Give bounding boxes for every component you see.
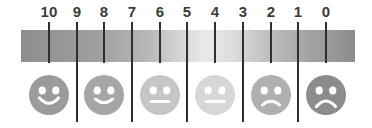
face-sad-icon[interactable] <box>250 74 292 116</box>
tick-line-3 <box>242 22 244 122</box>
tick-line-10 <box>48 22 50 63</box>
tick-line-9 <box>76 22 78 122</box>
face-happy-icon[interactable] <box>83 74 125 116</box>
tick-line-6 <box>159 22 161 63</box>
face-slightly-sad-icon[interactable] <box>194 74 236 116</box>
tick-line-7 <box>131 22 133 122</box>
rating-scale-widget: 109876543210 <box>0 0 372 128</box>
tick-line-4 <box>214 22 216 63</box>
tick-line-2 <box>270 22 272 63</box>
tick-line-8 <box>103 22 105 63</box>
tick-label-7[interactable]: 7 <box>117 3 147 21</box>
tick-label-3[interactable]: 3 <box>228 3 258 21</box>
tick-label-9[interactable]: 9 <box>62 3 92 21</box>
face-neutral-icon[interactable] <box>139 74 181 116</box>
tick-line-5 <box>186 22 188 122</box>
tick-line-0 <box>325 22 327 63</box>
tick-label-4[interactable]: 4 <box>200 3 230 21</box>
tick-label-0[interactable]: 0 <box>311 3 341 21</box>
tick-label-1[interactable]: 1 <box>283 3 313 21</box>
face-very-happy-icon[interactable] <box>28 74 70 116</box>
tick-label-10[interactable]: 10 <box>34 3 64 21</box>
face-very-sad-icon[interactable] <box>305 74 347 116</box>
gradient-bar[interactable] <box>21 30 355 62</box>
tick-label-2[interactable]: 2 <box>256 3 286 21</box>
tick-label-5[interactable]: 5 <box>172 3 202 21</box>
tick-line-1 <box>297 22 299 122</box>
tick-label-6[interactable]: 6 <box>145 3 175 21</box>
tick-label-8[interactable]: 8 <box>89 3 119 21</box>
